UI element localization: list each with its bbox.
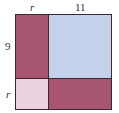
left-label-r: r [6, 89, 10, 100]
left-label-9: 9 [5, 41, 11, 52]
top-label-r: r [30, 2, 34, 13]
square-outline [15, 14, 112, 110]
top-label-11: 11 [75, 2, 86, 13]
